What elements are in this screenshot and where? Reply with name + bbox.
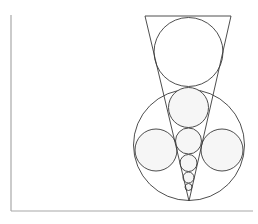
right-side-circle	[201, 129, 243, 171]
upper-inner-circle	[169, 88, 209, 128]
left-side-circle	[135, 129, 177, 171]
small-circle	[180, 155, 197, 172]
diagram-canvas	[0, 0, 258, 224]
middle-circle	[176, 128, 202, 154]
top-circle	[154, 18, 223, 87]
